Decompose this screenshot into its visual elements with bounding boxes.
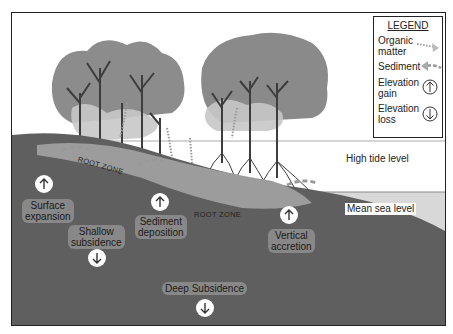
surface-expansion-label: Surfaceexpansion: [22, 199, 74, 223]
dotted-arrow-right-icon: [416, 39, 440, 53]
arrow-up-circle-icon: [422, 79, 438, 95]
high-tide-label: High tide level: [344, 153, 411, 165]
sediment-deposition-label: Sedimentdeposition: [135, 215, 187, 239]
canopy-right: [201, 33, 328, 131]
legend-item-organic-matter: Organicmatter: [378, 35, 413, 57]
dashed-arrow-left-icon: [420, 59, 442, 73]
mean-sea-label: Mean sea level: [345, 203, 416, 215]
elevation-loss-icon: [88, 249, 106, 267]
vertical-accretion-label: Verticalaccretion: [268, 229, 315, 253]
legend: LEGEND Organicmatter Sediment Elevationg…: [373, 16, 443, 138]
shallow-subsidence-label: Shallowsubsidence: [68, 225, 125, 249]
elevation-gain-icon: [151, 193, 169, 211]
root-zone-label: ROOT ZONE: [194, 210, 241, 219]
legend-title: LEGEND: [374, 20, 442, 31]
legend-item-sediment: Sediment: [378, 61, 420, 72]
legend-item-elevation-gain: Elevationgain: [378, 77, 419, 99]
elevation-gain-icon: [280, 206, 298, 224]
legend-item-elevation-loss: Elevationloss: [378, 103, 419, 125]
deep-subsidence-label: Deep Subsidence: [162, 282, 247, 295]
elevation-gain-icon: [35, 175, 53, 193]
elevation-loss-icon: [196, 299, 214, 317]
canopy-left: [52, 40, 185, 141]
arrow-down-circle-icon: [422, 106, 438, 122]
